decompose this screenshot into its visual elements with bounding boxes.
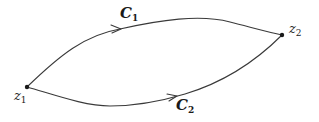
label-c2: C2 [176,96,194,115]
point-z2 [280,33,284,37]
label-z2: z2 [288,21,302,38]
path-c1 [27,18,282,87]
contour-diagram: C1 C2 z1 z2 [0,0,319,122]
label-z1: z1 [13,88,27,105]
point-z1 [25,85,29,89]
path-c2 [27,35,282,106]
label-c1: C1 [120,4,138,23]
